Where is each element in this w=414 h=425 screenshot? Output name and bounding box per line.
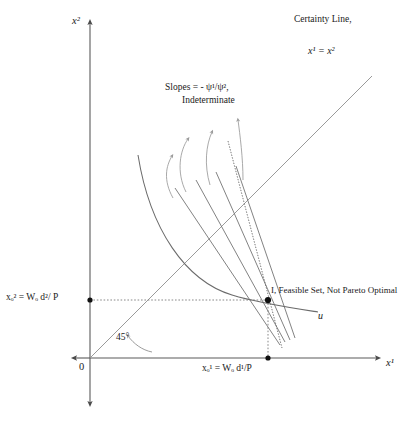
diagram-canvas xyxy=(0,0,414,425)
indeterminate-label: Indeterminate xyxy=(182,95,235,107)
indifference-curve-label: u xyxy=(318,310,323,323)
budget-line-2 xyxy=(196,180,285,342)
budget-line-1 xyxy=(175,188,280,345)
budget-line-5-dotted xyxy=(228,141,282,348)
y-axis-label: x² xyxy=(72,14,80,27)
angle-arc-arrow xyxy=(128,336,152,352)
budget-line-4 xyxy=(236,166,295,338)
x-axis-label: x¹ xyxy=(386,356,394,369)
economics-diagram: x² x¹ 0 Certainty Line, x¹ = x² Slopes =… xyxy=(0,0,414,425)
angle-label: 45° xyxy=(116,332,129,344)
budget-line-fan xyxy=(175,141,295,348)
callout-arrow-4 xyxy=(238,120,243,180)
origin-label: 0 xyxy=(79,360,84,373)
certainty-line-label: Certainty Line, xyxy=(294,14,352,26)
x-axis-dot xyxy=(265,355,270,360)
x-intercept-label: xₒ¹ = Wₒ d¹/P xyxy=(202,363,252,375)
budget-line-3 xyxy=(216,172,290,340)
certainty-line xyxy=(90,76,372,358)
callout-arrow-3 xyxy=(206,132,212,185)
feasible-set-label: I, Feasible Set, Not Pareto Optimal xyxy=(271,285,397,296)
axis-group xyxy=(74,22,378,404)
y-axis-dot xyxy=(87,297,92,302)
y-intercept-label: xₒ² = Wₒ d²/ P xyxy=(6,292,58,304)
certainty-line-equation: x¹ = x² xyxy=(308,45,335,58)
callout-arrow-2 xyxy=(180,139,188,192)
callout-arrow-group xyxy=(166,120,243,198)
equilibrium-point-marker xyxy=(265,297,271,303)
slopes-label: Slopes = - ψ¹/ψ², xyxy=(165,82,229,94)
callout-arrow-1 xyxy=(166,156,173,198)
